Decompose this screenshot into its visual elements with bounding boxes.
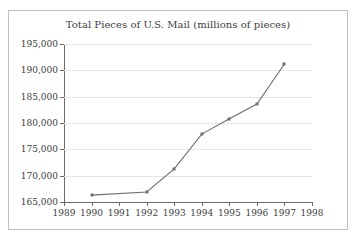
y-axis-tick-label: 180,000 bbox=[21, 118, 58, 128]
x-axis-tick bbox=[284, 202, 285, 206]
y-axis-tick-label: 195,000 bbox=[21, 39, 58, 49]
y-axis-tick-label: 185,000 bbox=[21, 92, 58, 102]
data-point-marker bbox=[200, 133, 203, 136]
data-point-marker bbox=[90, 194, 93, 197]
x-axis-tick bbox=[257, 202, 258, 206]
x-axis-tick bbox=[312, 202, 313, 206]
x-axis-tick-label: 1991 bbox=[108, 208, 131, 218]
x-axis-tick bbox=[202, 202, 203, 206]
x-axis-tick bbox=[92, 202, 93, 206]
x-axis-tick bbox=[64, 202, 65, 206]
data-point-marker bbox=[173, 167, 176, 170]
chart-title: Total Pieces of U.S. Mail (millions of p… bbox=[8, 19, 348, 30]
x-axis-tick bbox=[147, 202, 148, 206]
series-line bbox=[64, 44, 312, 202]
x-axis-tick bbox=[229, 202, 230, 206]
x-axis-tick-label: 1996 bbox=[245, 208, 268, 218]
x-axis-tick-label: 1997 bbox=[273, 208, 296, 218]
x-axis-line bbox=[64, 202, 312, 203]
data-point-marker bbox=[255, 103, 258, 106]
plot-area: 165,000170,000175,000180,000185,000190,0… bbox=[64, 44, 312, 202]
x-axis-tick-label: 1994 bbox=[190, 208, 213, 218]
x-axis-tick-label: 1995 bbox=[218, 208, 241, 218]
y-axis-tick-label: 165,000 bbox=[21, 197, 58, 207]
x-axis-tick-label: 1989 bbox=[53, 208, 76, 218]
y-axis-tick-label: 190,000 bbox=[21, 65, 58, 75]
chart-figure: Total Pieces of U.S. Mail (millions of p… bbox=[0, 0, 358, 239]
data-point-marker bbox=[228, 117, 231, 120]
x-axis-tick-label: 1990 bbox=[80, 208, 103, 218]
x-axis-tick bbox=[119, 202, 120, 206]
data-point-marker bbox=[283, 63, 286, 66]
x-axis-tick-label: 1993 bbox=[163, 208, 186, 218]
y-axis-tick-label: 175,000 bbox=[21, 144, 58, 154]
x-axis-tick-label: 1992 bbox=[135, 208, 158, 218]
x-axis-tick-label: 1998 bbox=[301, 208, 324, 218]
x-axis-tick bbox=[174, 202, 175, 206]
y-axis-tick-label: 170,000 bbox=[21, 171, 58, 181]
data-point-marker bbox=[145, 190, 148, 193]
